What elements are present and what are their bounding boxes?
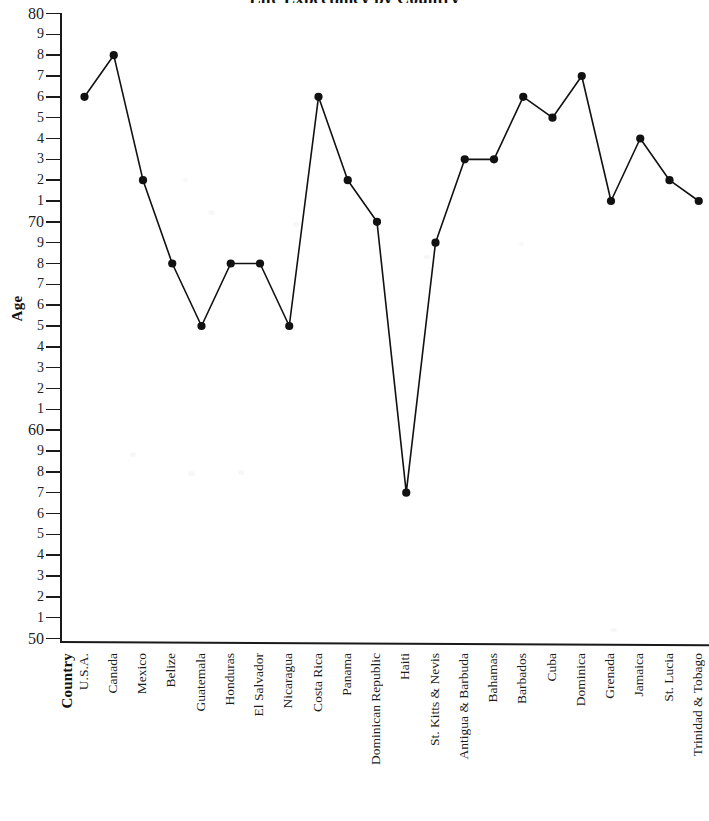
y-axis-tick-label: 50 [2,631,44,647]
x-axis-tick-label: Belize [164,653,180,687]
data-point [461,155,469,163]
y-axis-tick [46,471,60,473]
data-point [431,239,439,247]
x-axis-tick-label: El Salvador [252,653,268,716]
x-axis-tick-label: Jamaica [632,653,648,696]
data-point [695,197,703,205]
data-point [139,176,147,184]
scan-speckle [293,222,299,227]
x-axis-tick-label: St. Kitts & Nevis [428,653,444,746]
x-axis-tick-label: Grenada [603,653,619,699]
y-axis-tick-label: 5 [2,111,44,125]
y-axis-tick-label: 1 [2,194,44,208]
x-axis-tick-label: St. Lucia [662,653,678,702]
y-axis-tick [46,638,60,640]
scan-speckle [424,255,430,259]
y-axis-tick-label: 7 [2,486,44,500]
scan-speckle [130,452,136,457]
y-axis-tick [46,617,60,619]
y-axis-tick [46,263,60,265]
line-chart: Life Expectancy by Country 8098765432170… [0,0,709,821]
scan-speckle [610,628,617,632]
y-axis-tick [46,304,60,306]
y-axis-tick [46,346,60,348]
y-axis-tick-label: 4 [2,548,44,562]
data-point [373,218,381,226]
x-axis-tick-label: Trinidad & Tobago [691,653,707,756]
x-axis-tick-label: Honduras [223,653,239,706]
y-axis-tick [46,429,60,431]
data-point [490,155,498,163]
scan-speckle [188,471,195,476]
x-axis-tick-label: Mexico [135,653,151,694]
x-axis-tick-label: Guatemala [194,653,210,711]
y-axis-tick [46,13,60,15]
y-axis-tick-label: 4 [2,132,44,146]
y-axis-tick-label: 6 [2,90,44,104]
y-axis-tick [46,159,60,161]
y-axis-tick [46,117,60,119]
y-axis-title: Age [9,288,26,330]
x-axis-tick-label: Nicaragua [281,653,297,708]
y-axis-tick [46,513,60,515]
data-point [665,176,673,184]
x-axis-tick-label: Dominica [574,653,590,706]
data-point [607,197,615,205]
data-point [285,322,293,330]
data-point [168,259,176,267]
y-axis-tick [46,492,60,494]
y-axis-tick [46,450,60,452]
y-axis-tick [46,575,60,577]
y-axis-tick [46,200,60,202]
y-axis-tick-label: 3 [2,569,44,583]
scan-speckle [183,178,188,182]
y-axis-tick-labels: 80987654321709876543216098765432150 [0,0,44,821]
data-point [578,72,586,80]
y-axis-tick-label: 5 [2,527,44,541]
x-axis-tick-label: Cuba [545,653,561,682]
y-axis-tick [46,367,60,369]
data-point [197,322,205,330]
y-axis-tick-label: 7 [2,69,44,83]
y-axis-tick-label: 2 [2,382,44,396]
y-axis-line [60,13,62,641]
scan-speckle [238,470,244,475]
y-axis-tick-label: 8 [2,257,44,271]
data-point [402,489,410,497]
x-axis-tick-label: Costa Rica [311,653,327,712]
x-axis-tick-label: Barbados [515,653,531,704]
y-axis-tick-label: 3 [2,361,44,375]
scan-speckle [519,242,524,246]
y-axis-tick-label: 9 [2,444,44,458]
y-axis-tick [46,54,60,56]
x-axis-tick-label: U.S.A. [77,653,93,690]
y-axis-tick-label: 2 [2,173,44,187]
scan-speckle [208,210,215,215]
chart-title: Life Expectancy by Country [0,0,709,3]
y-axis-tick-label: 1 [2,402,44,416]
y-axis-tick-label: 1 [2,611,44,625]
data-point [636,134,644,142]
data-point [227,259,235,267]
y-axis-tick [46,242,60,244]
y-axis-tick-label: 3 [2,152,44,166]
y-axis-tick [46,138,60,140]
y-axis-tick [46,284,60,286]
y-axis-tick-label: 4 [2,340,44,354]
y-axis-tick-label: 9 [2,236,44,250]
series-line [85,55,699,493]
y-axis-tick [46,409,60,411]
y-axis-tick-label: 9 [2,27,44,41]
y-axis-tick [46,179,60,181]
y-axis-tick [46,96,60,98]
x-axis-tick-label: Panama [340,653,356,696]
x-axis-line [60,641,709,646]
y-axis-tick-label: 6 [2,507,44,521]
series-markers [80,51,702,497]
data-point [110,51,118,59]
data-point [314,93,322,101]
y-axis-tick-label: 8 [2,465,44,479]
data-point [256,259,264,267]
x-axis-tick-label: Canada [106,653,122,693]
y-axis-tick [46,388,60,390]
